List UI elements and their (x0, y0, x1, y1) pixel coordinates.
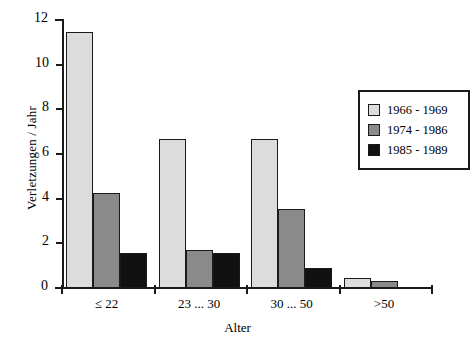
y-tick-label: 0 (41, 277, 48, 295)
bar (344, 278, 371, 288)
y-tick: 6 (56, 153, 64, 155)
bar (120, 253, 147, 288)
legend-swatch-icon (368, 124, 380, 136)
legend-label: 1985 - 1989 (387, 144, 447, 157)
y-tick: 2 (56, 242, 64, 244)
bar (305, 268, 332, 288)
y-tick-label: 10 (35, 54, 49, 72)
bar (278, 209, 305, 288)
y-tick: 8 (56, 108, 64, 110)
legend: 1966 - 19691974 - 19861985 - 1989 (358, 90, 470, 170)
x-category-label: >50 (334, 296, 434, 312)
bar (371, 281, 398, 288)
x-tick (246, 285, 248, 294)
x-tick (154, 285, 156, 294)
bar (159, 139, 186, 288)
y-tick-label: 8 (42, 98, 49, 116)
x-category-label: ≤ 22 (57, 296, 157, 312)
legend-label: 1966 - 1969 (387, 104, 447, 117)
legend-item[interactable]: 1966 - 1969 (368, 101, 460, 119)
x-category-label: 23 ... 30 (149, 296, 249, 312)
y-tick: 4 (56, 198, 64, 200)
x-tick (339, 285, 341, 294)
bar (213, 253, 240, 288)
legend-item[interactable]: 1974 - 1986 (368, 121, 460, 139)
bar-chart-figure: Verletzungen / Jahr 024681012 ≤ 2223 ...… (0, 0, 475, 348)
x-tick (61, 285, 63, 294)
x-tick (431, 285, 433, 294)
bar (93, 193, 120, 288)
x-category-label: 30 ... 50 (242, 296, 342, 312)
x-axis-title: Alter (0, 320, 475, 336)
y-tick-label: 2 (42, 232, 49, 250)
bar (66, 32, 93, 288)
y-tick-label: 6 (42, 143, 49, 161)
bar (186, 250, 213, 288)
y-tick-label: 12 (34, 9, 48, 27)
legend-label: 1974 - 1986 (387, 124, 447, 137)
y-tick: 12 (55, 19, 64, 21)
legend-item[interactable]: 1985 - 1989 (368, 141, 460, 159)
legend-swatch-icon (368, 144, 380, 156)
bar (251, 139, 278, 288)
y-tick: 10 (56, 64, 64, 66)
legend-swatch-icon (368, 104, 380, 116)
y-axis-title: Verletzungen / Jahr (24, 48, 40, 268)
y-tick-label: 4 (42, 188, 49, 206)
